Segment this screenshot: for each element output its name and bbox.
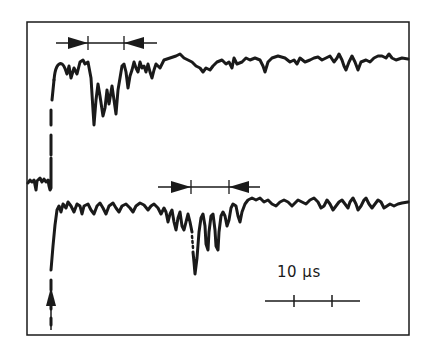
arrow-right-icon bbox=[68, 37, 88, 49]
trigger-arrow-icon bbox=[46, 287, 56, 330]
upper-trace bbox=[51, 54, 408, 155]
scale-bar bbox=[265, 295, 360, 307]
arrow-left-icon bbox=[124, 37, 144, 49]
lower-interval-marker bbox=[158, 180, 260, 194]
scale-bar-label: 10 µs bbox=[277, 263, 321, 281]
arrow-left-icon bbox=[229, 181, 249, 193]
upper-interval-marker bbox=[56, 36, 157, 50]
oscilloscope-figure: 10 µs bbox=[0, 0, 434, 352]
pre-trigger-segment bbox=[28, 158, 51, 190]
lower-trace bbox=[51, 198, 408, 325]
plot-frame bbox=[27, 22, 409, 335]
arrow-right-icon bbox=[171, 181, 191, 193]
